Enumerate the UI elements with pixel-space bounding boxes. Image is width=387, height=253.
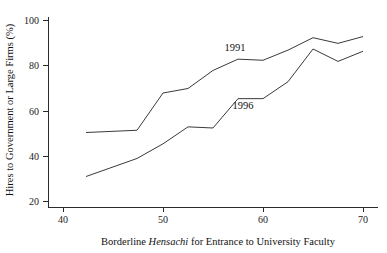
chart-container: 20406080100 40506070 19911996 Hires to G… [0, 0, 387, 253]
x-tick-label: 40 [58, 214, 68, 225]
line-chart: 20406080100 40506070 19911996 Hires to G… [0, 0, 387, 253]
y-tick-label: 100 [24, 15, 39, 26]
y-tick-label: 80 [29, 60, 39, 71]
x-tick-label: 50 [158, 214, 168, 225]
x-tick-label: 70 [358, 214, 368, 225]
y-tick-label: 40 [29, 151, 39, 162]
y-axis-title: Hires to Government or Large Firms (%) [4, 23, 16, 196]
x-tick-label: 60 [258, 214, 268, 225]
y-tick-label: 20 [29, 196, 39, 207]
series-label-1991: 1991 [225, 42, 246, 53]
x-axis-title: Borderline Hensachi for Entrance to Univ… [101, 236, 336, 247]
y-tick-label: 60 [29, 106, 39, 117]
series-label-1996: 1996 [233, 100, 254, 111]
